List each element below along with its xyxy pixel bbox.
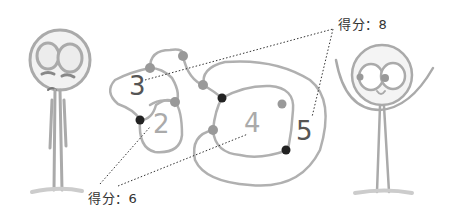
region-number-2: 2 <box>153 109 170 139</box>
score-label-right: 得分：8 <box>338 14 387 33</box>
region-number-5: 5 <box>296 116 313 146</box>
score-label-left: 得分：6 <box>88 188 137 207</box>
illustration-canvas <box>0 0 456 221</box>
region-number-3: 3 <box>129 71 146 101</box>
happy-stick-figure <box>336 45 433 193</box>
region-number-4: 4 <box>244 108 261 138</box>
sad-stick-figure <box>30 30 90 192</box>
